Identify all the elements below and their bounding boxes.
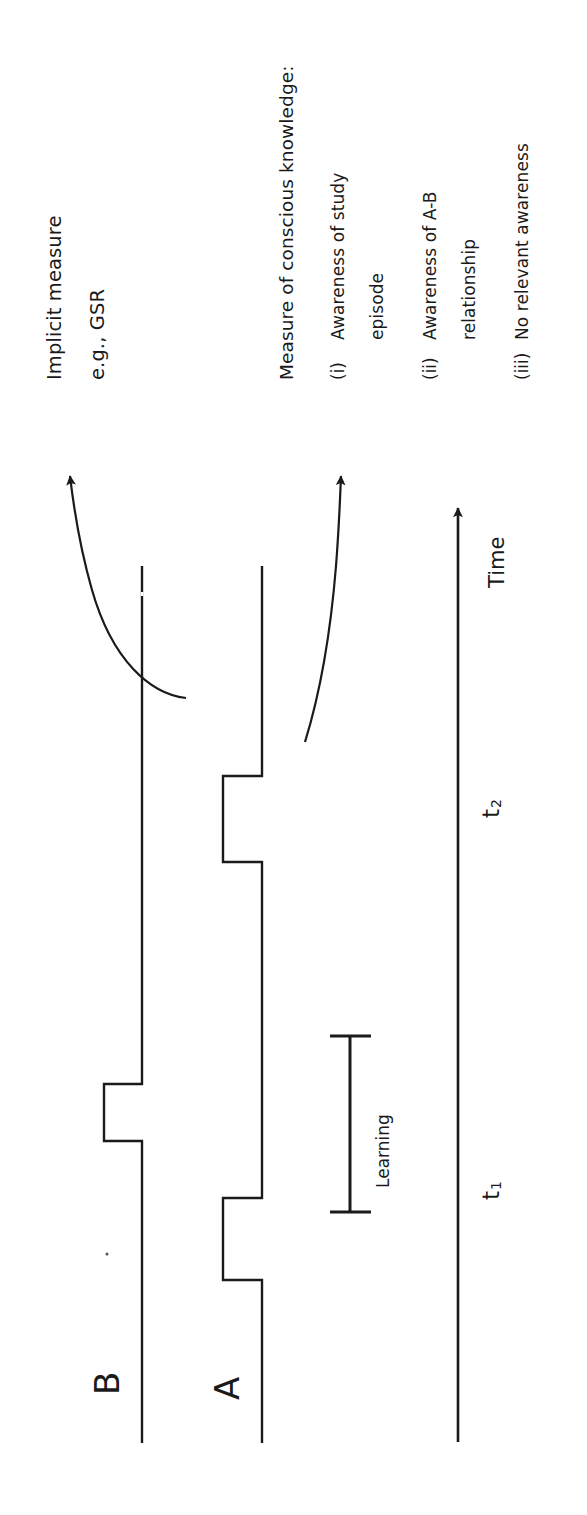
time-tick-t2-subscript: 2	[488, 799, 504, 809]
time-tick-t1-base: t	[478, 1191, 504, 1200]
implicit-measure-line1: Implicit measure	[45, 215, 65, 380]
learning-bracket	[330, 1036, 371, 1212]
figure-canvas: B A Learning t1 t2 Time Implicit measure…	[0, 0, 587, 1515]
conscious-item-2-line1: No relevant awareness	[514, 143, 531, 340]
time-tick-t1: t1	[480, 1181, 503, 1200]
implicit-measure-arrow	[70, 476, 186, 698]
conscious-item-1-line2: relationship	[461, 239, 478, 340]
time-tick-t1-subscript: 1	[488, 1181, 504, 1191]
trace-a-path	[223, 566, 262, 1443]
conscious-item-1-line1: Awareness of A-B	[422, 191, 439, 340]
conscious-measure-arrow	[305, 476, 341, 742]
implicit-measure-line2: e.g., GSR	[88, 289, 108, 380]
conscious-item-2-marker: (iii)	[514, 353, 531, 380]
conscious-measure-heading: Measure of conscious knowledge:	[278, 65, 297, 380]
time-tick-t2: t2	[480, 799, 503, 818]
conscious-item-0-line1: Awareness of study	[330, 173, 347, 340]
conscious-item-1-marker: (ii)	[422, 357, 439, 380]
learning-bracket-label: Learning	[375, 1114, 392, 1188]
time-tick-t2-base: t	[478, 809, 504, 818]
conscious-item-0-marker: (i)	[330, 362, 347, 380]
time-axis-label: Time	[487, 537, 508, 588]
trace-a-label: A	[210, 1377, 244, 1400]
conscious-item-0-line2: episode	[369, 273, 386, 340]
trace-b-label: B	[90, 1372, 124, 1395]
trace-b-path	[104, 566, 142, 1443]
